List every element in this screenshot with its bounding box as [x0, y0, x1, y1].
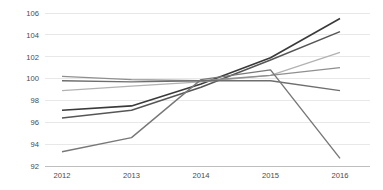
x-axis-tick-label: 2014 [193, 171, 210, 180]
y-axis-tick-label: 92 [31, 162, 39, 171]
gridlines [45, 13, 370, 166]
chart-canvas: 92949698100102104106 2012201320142015201… [0, 0, 383, 190]
x-axis-tick-label: 2015 [262, 171, 279, 180]
series-line [62, 70, 340, 159]
y-axis-tick-label: 100 [26, 74, 39, 83]
x-axis-labels: 20122013201420152016 [54, 171, 349, 180]
y-axis-labels: 92949698100102104106 [26, 9, 39, 171]
x-axis-tick-label: 2016 [332, 171, 349, 180]
y-axis-tick-label: 106 [26, 9, 39, 18]
y-axis-tick-label: 98 [31, 96, 39, 105]
y-axis-tick-label: 102 [26, 53, 39, 62]
y-axis-tick-label: 96 [31, 118, 39, 127]
series-line [62, 18, 340, 110]
x-axis-tick-label: 2013 [123, 171, 140, 180]
x-axis-tick-label: 2012 [54, 171, 71, 180]
line-chart: 92949698100102104106 2012201320142015201… [0, 0, 383, 190]
data-series-group [62, 18, 340, 158]
y-axis-tick-label: 94 [31, 140, 39, 149]
y-axis-tick-label: 104 [26, 31, 39, 40]
